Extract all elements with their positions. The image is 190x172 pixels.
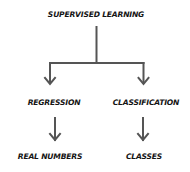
classification-node-label: CLASSIFICATION bbox=[113, 98, 180, 107]
connector-lines bbox=[0, 0, 190, 172]
classes-node-label: CLASSES bbox=[126, 152, 162, 161]
regression-node-label: REGRESSION bbox=[28, 98, 81, 107]
real-numbers-node-label: REAL NUMBERS bbox=[18, 152, 82, 161]
